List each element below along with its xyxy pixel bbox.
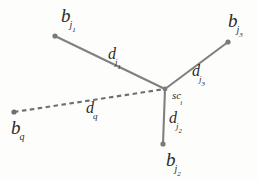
- node-label-b-j2: bj2: [166, 150, 182, 175]
- node-dot-b-q: [11, 109, 16, 114]
- node-label-b-q-sub: q: [20, 131, 25, 142]
- node-label-b-j1-sub-index: 1: [72, 26, 76, 34]
- node-label-b-j3: bj3: [228, 11, 244, 36]
- edge-label-d-q: dq: [86, 100, 99, 122]
- node-dot-b-j3: [225, 39, 230, 44]
- node-label-b-q-sub-var: q: [20, 131, 25, 142]
- node-label-b-q: bq: [11, 118, 26, 143]
- center-label-sc-i-sub: i: [180, 99, 182, 107]
- edge-label-d-j2-sub-index: 2: [179, 127, 183, 135]
- edge-label-d-j3-sub-index: 3: [202, 80, 206, 88]
- center-label-sc-i-sub-var: i: [180, 99, 182, 107]
- edge-label-d-j1: dj1: [108, 46, 122, 68]
- edge-label-d-q-sub-var: q: [93, 111, 98, 121]
- node-dot-sc-i: [163, 87, 168, 92]
- edge-label-d-j2: dj2: [169, 110, 183, 132]
- diagram-canvas: bj1 bj3 bj2 bq sci dj1 dj3 dj2 dq: [0, 0, 258, 181]
- node-label-b-j2-sub-index: 2: [177, 170, 181, 178]
- center-label-sc-i: sci: [172, 86, 183, 108]
- edge-label-d-q-sub: q: [93, 111, 98, 121]
- node-label-b-j1-sub: j1: [70, 19, 76, 30]
- node-label-b-j3-sub: j3: [237, 24, 243, 35]
- edge-line-d-j2: [163, 89, 165, 144]
- edge-label-d-j1-sub: j1: [115, 57, 121, 67]
- node-label-b-j1: bj1: [61, 6, 77, 31]
- node-label-b-j3-sub-index: 3: [239, 31, 243, 39]
- node-label-b-j2-sub: j2: [175, 163, 181, 174]
- diagram-svg: [0, 0, 258, 181]
- edge-label-d-j2-sub: j2: [176, 121, 182, 131]
- node-dot-b-j2: [160, 141, 165, 146]
- node-dot-b-j1: [52, 33, 57, 38]
- edge-label-d-j3-sub: j3: [199, 74, 205, 84]
- edge-label-d-j1-sub-index: 1: [118, 63, 122, 71]
- edge-label-d-j3: dj3: [192, 63, 206, 85]
